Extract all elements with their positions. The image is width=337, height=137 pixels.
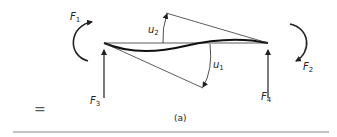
rotation-line-u2 [166, 13, 268, 43]
label-f3: F3 [90, 95, 100, 108]
moment-arrow-f2 [290, 24, 307, 61]
equals-sign: = [34, 101, 46, 117]
rotation-line-u1 [104, 43, 203, 88]
beam-element-diagram: F1 F2 F3 F4 u2 u1 = (a) [0, 0, 337, 137]
u2-arc-arrow [163, 14, 167, 43]
label-f2: F2 [303, 61, 313, 74]
figure-caption: (a) [174, 113, 187, 123]
moment-arrow-f1 [73, 22, 92, 61]
u1-arc-arrow [203, 44, 211, 87]
label-u2: u2 [148, 24, 159, 37]
deformed-beam-curve [104, 40, 268, 51]
label-f1: F1 [70, 11, 80, 24]
label-f4: F4 [261, 91, 272, 104]
label-u1: u1 [213, 59, 224, 72]
